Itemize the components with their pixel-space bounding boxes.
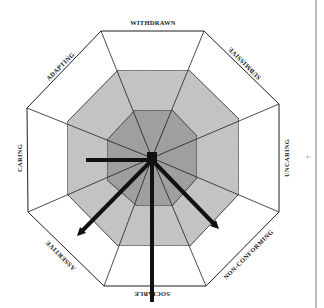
- center-hub: [147, 152, 157, 163]
- label-sociable: SOCIABLE: [134, 291, 170, 298]
- circumplex-diagram: WITHDRAWN SUBMISSIVE UNCARING NON-CONFOR…: [0, 0, 324, 308]
- label-caring: CARING: [16, 144, 23, 172]
- page-number: 7: [306, 156, 312, 159]
- label-withdrawn: WITHDRAWN: [130, 19, 176, 26]
- label-uncaring: UNCARING: [283, 139, 290, 177]
